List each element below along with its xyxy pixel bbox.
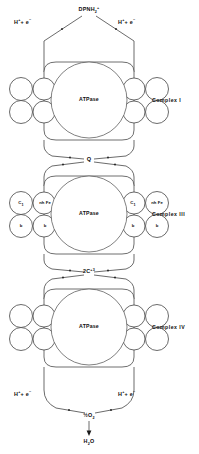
carrier-q-label: Q: [87, 157, 92, 163]
bottom-right-donor-label: H++ e−: [118, 392, 135, 397]
complex-1-label: Complex I: [152, 98, 181, 103]
top-right-donor-label: H++ e−: [118, 20, 135, 25]
complex-3-subunit-inner-left-bottom: b: [44, 224, 47, 228]
complex-3-subunit-inner-left-top: nh Fe: [39, 201, 51, 205]
oxygen-label: ½O2: [83, 413, 95, 418]
bottom-left-donor-label: H++ e−: [14, 392, 31, 397]
complex-1-core-label: ATPase: [79, 97, 99, 102]
complex-3-core-label: ATPase: [79, 211, 99, 216]
electron-transport-chain-svg: [0, 0, 199, 454]
complex-3-subunit-outer-left-bottom: b: [20, 224, 23, 228]
complex-3-subunit-outer-right-bottom: b: [156, 224, 159, 228]
complex-3-subunit-outer-left-top: C1: [18, 201, 23, 205]
bottom-arrowheads: [68, 409, 112, 411]
water-arrow: [87, 421, 92, 436]
complex-4-core-label: ATPase: [79, 324, 99, 329]
top-left-donor-label: H++ e−: [14, 20, 31, 25]
carrier-cytochrome-c-label: 2C+3: [83, 269, 95, 274]
complex-3-subunit-outer-right-top: nh Fe: [151, 201, 163, 205]
bottom-funnel-lines: [44, 367, 134, 413]
complex-3-subunit-inner-right-top: C1: [130, 201, 135, 205]
water-label: H2O: [84, 439, 95, 444]
top-arrowheads: [61, 28, 117, 30]
complex-3-label: Complex III: [152, 212, 185, 217]
complex-3-subunit-inner-right-bottom: b: [132, 224, 135, 228]
substrate-label-dpnh: DPNH2+: [79, 7, 100, 12]
complex-4-label: Complex IV: [152, 325, 185, 330]
diagram-canvas: DPNH2+ H++ e− H++ e− ATPase Complex I Q …: [0, 0, 199, 454]
